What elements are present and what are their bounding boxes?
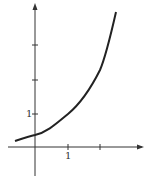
x-tick-label: 1 <box>65 151 71 161</box>
x-axis-arrow-icon <box>137 145 144 150</box>
curve <box>15 12 116 141</box>
y-axis-arrow-icon <box>33 3 38 10</box>
y-tick-label: 1 <box>26 109 32 119</box>
plot <box>0 0 154 178</box>
